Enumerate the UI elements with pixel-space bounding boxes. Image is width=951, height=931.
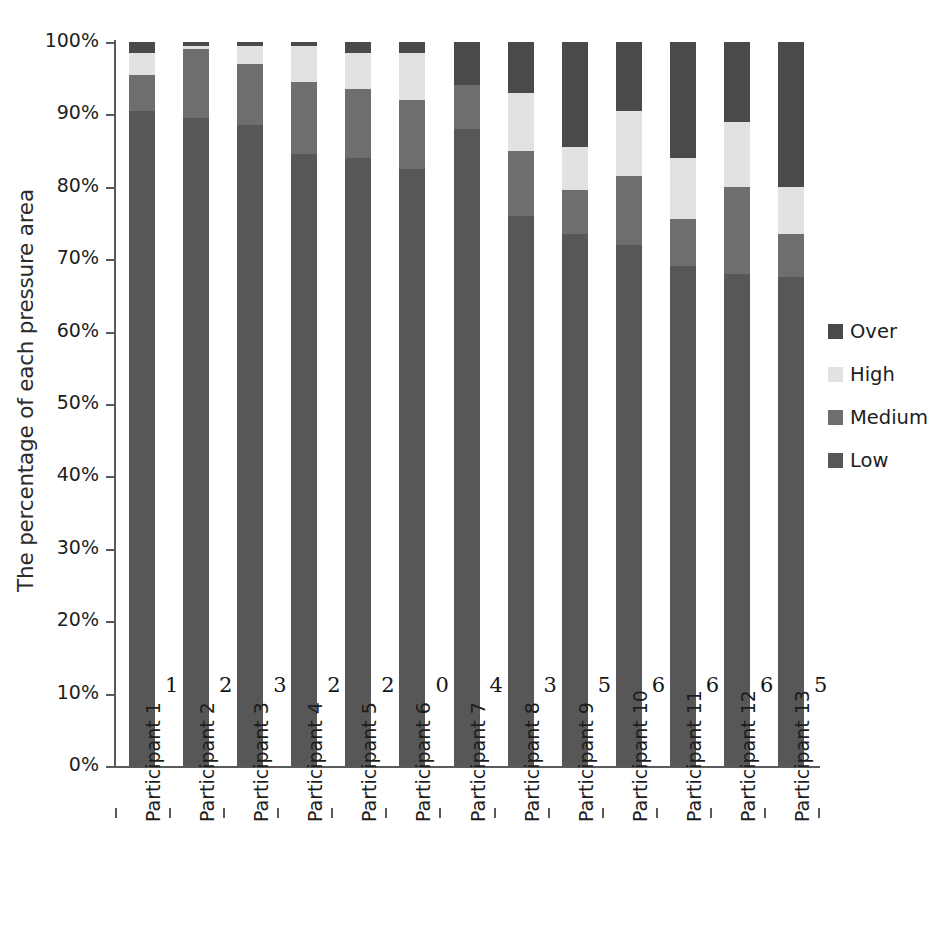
x-axis-category-label-text: Participant 4 — [304, 702, 326, 822]
y-axis-tick-mark — [106, 476, 115, 478]
bar-segment-high[interactable] — [778, 187, 804, 234]
y-axis-title: The percentage of each pressure area — [0, 0, 50, 780]
bar-segment-high[interactable] — [724, 122, 750, 187]
bar-value-label: 2 — [219, 673, 232, 697]
stacked-bar[interactable] — [778, 42, 804, 766]
bar-segment-over[interactable] — [345, 42, 371, 53]
bar-value-label: 1 — [165, 673, 178, 697]
bar-segment-medium[interactable] — [399, 100, 425, 169]
y-axis-tick-label: 70% — [57, 246, 99, 268]
bar-segment-over[interactable] — [724, 42, 750, 122]
stacked-bar[interactable] — [670, 42, 696, 766]
bar-segment-medium[interactable] — [129, 75, 155, 111]
bar-segment-over[interactable] — [670, 42, 696, 158]
bar-segment-medium[interactable] — [670, 219, 696, 266]
bar-value-label: 0 — [435, 673, 448, 697]
legend-item-medium[interactable]: Medium — [828, 396, 946, 439]
bar-segment-high[interactable] — [616, 111, 642, 176]
bar-segment-over[interactable] — [399, 42, 425, 53]
bar-segment-high[interactable] — [670, 158, 696, 220]
bar-value-label: 6 — [760, 673, 773, 697]
bar-segment-medium[interactable] — [345, 89, 371, 158]
stacked-bar[interactable] — [562, 42, 588, 766]
bar-segment-over[interactable] — [778, 42, 804, 187]
bar-segment-high[interactable] — [508, 93, 534, 151]
y-axis-tick-mark — [106, 621, 115, 623]
legend-item-low[interactable]: Low — [828, 439, 946, 482]
legend-item-over[interactable]: Over — [828, 310, 946, 353]
bar-segment-high[interactable] — [183, 46, 209, 50]
bar-segment-medium[interactable] — [616, 176, 642, 245]
bar-value-label: 2 — [381, 673, 394, 697]
bar-segment-over[interactable] — [616, 42, 642, 111]
bar-segment-over[interactable] — [129, 42, 155, 53]
stacked-bar[interactable] — [237, 42, 263, 766]
bar-segment-medium[interactable] — [454, 85, 480, 128]
x-axis-tick-mark — [710, 808, 712, 818]
bar-segment-high[interactable] — [291, 46, 317, 82]
stacked-bar[interactable] — [129, 42, 155, 766]
y-axis-tick-label: 0% — [69, 753, 99, 775]
y-axis-tick-mark — [106, 404, 115, 406]
stacked-bar[interactable] — [291, 42, 317, 766]
x-axis-category-label-text: Participant 5 — [358, 702, 380, 822]
stacked-bar[interactable] — [399, 42, 425, 766]
stacked-bar[interactable] — [508, 42, 534, 766]
legend-item-high[interactable]: High — [828, 353, 946, 396]
bar-segment-medium[interactable] — [237, 64, 263, 126]
chart-legend: OverHighMediumLow — [828, 310, 946, 482]
bar-segment-over[interactable] — [291, 42, 317, 46]
bar-segment-medium[interactable] — [778, 234, 804, 277]
legend-swatch-icon — [828, 410, 843, 425]
bar-segment-high[interactable] — [129, 53, 155, 75]
bar-segment-low[interactable] — [399, 169, 425, 766]
legend-swatch-icon — [828, 367, 843, 382]
bar-segment-low[interactable] — [345, 158, 371, 766]
x-axis-category-label-text: Participant 2 — [196, 702, 218, 822]
x-axis-tick-mark — [764, 808, 766, 818]
bar-segment-medium[interactable] — [508, 151, 534, 216]
stacked-bar[interactable] — [183, 42, 209, 766]
bar-segment-over[interactable] — [237, 42, 263, 46]
x-axis-tick-mark — [223, 808, 225, 818]
x-axis-category-label-text: Participant 9 — [575, 702, 597, 822]
y-axis-tick-label: 20% — [57, 608, 99, 630]
x-axis-tick-mark — [656, 808, 658, 818]
y-axis-tick-label: 40% — [57, 463, 99, 485]
bar-segment-low[interactable] — [508, 216, 534, 766]
bar-segment-low[interactable] — [291, 154, 317, 766]
bar-segment-high[interactable] — [237, 46, 263, 64]
bar-segment-low[interactable] — [129, 111, 155, 766]
y-axis-tick-mark — [106, 259, 115, 261]
stacked-bar[interactable] — [724, 42, 750, 766]
x-axis-category-label-text: Participant 1 — [142, 702, 164, 822]
bar-value-label: 3 — [544, 673, 557, 697]
bar-segment-low[interactable] — [616, 245, 642, 766]
x-axis-category-label-text: Participant 6 — [412, 702, 434, 822]
bar-segment-high[interactable] — [562, 147, 588, 190]
bar-value-label: 5 — [814, 673, 827, 697]
bar-segment-over[interactable] — [183, 42, 209, 46]
bar-segment-over[interactable] — [454, 42, 480, 85]
stacked-bar[interactable] — [454, 42, 480, 766]
bar-segment-low[interactable] — [454, 129, 480, 766]
stacked-bar[interactable] — [345, 42, 371, 766]
bar-segment-low[interactable] — [183, 118, 209, 766]
bar-segment-medium[interactable] — [291, 82, 317, 154]
x-axis-category-label-text: Participant 7 — [467, 702, 489, 822]
bar-segment-medium[interactable] — [562, 190, 588, 233]
bar-segment-low[interactable] — [237, 125, 263, 766]
legend-swatch-icon — [828, 453, 843, 468]
bar-segment-high[interactable] — [399, 53, 425, 100]
bar-segment-over[interactable] — [562, 42, 588, 147]
bar-segment-high[interactable] — [345, 53, 371, 89]
bar-value-label: 6 — [706, 673, 719, 697]
x-axis-category-label-text: Participant 12 — [737, 690, 759, 822]
bar-segment-low[interactable] — [562, 234, 588, 766]
bar-value-label: 3 — [273, 673, 286, 697]
stacked-bar[interactable] — [616, 42, 642, 766]
bar-segment-medium[interactable] — [724, 187, 750, 274]
bar-segment-medium[interactable] — [183, 49, 209, 118]
y-axis-tick-mark — [106, 332, 115, 334]
bar-segment-over[interactable] — [508, 42, 534, 93]
